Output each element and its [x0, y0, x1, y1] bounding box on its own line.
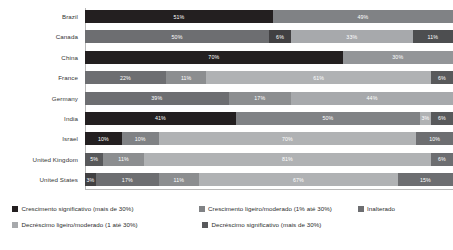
bar-segment: 3%: [85, 173, 96, 186]
bar-segment: 17%: [96, 173, 159, 186]
legend-swatch-icon: [12, 222, 18, 228]
bar-track: 41%50%3%6%: [85, 112, 453, 125]
legend-label: Decréscimo ligeiro/moderado (1 até 30%): [22, 221, 138, 229]
bar-track: 10%10%70%10%: [85, 132, 453, 145]
bar-row-label: Germany: [0, 92, 85, 105]
legend-item[interactable]: Crescimento significativo (mais de 30%): [12, 205, 187, 213]
bar-segment: 44%: [291, 92, 453, 105]
bar-segment: 6%: [431, 112, 453, 125]
bar-segment: 41%: [85, 112, 236, 125]
legend-swatch-icon: [199, 206, 205, 212]
legend-item[interactable]: Inalterado: [358, 205, 436, 213]
bar-row: United Kingdom5%11%81%6%: [0, 153, 453, 166]
chart-legend: Crescimento significativo (mais de 30%)C…: [12, 205, 448, 245]
bar-segment: 70%: [85, 51, 343, 64]
bar-row-label: India: [0, 112, 85, 125]
bar-segment: 6%: [431, 153, 453, 166]
bar-segment: 81%: [144, 153, 431, 166]
bar-track: 70%30%: [85, 51, 453, 64]
bar-rows: Brazil51%49%Canada50%6%33%11%China70%30%…: [0, 8, 453, 190]
bar-row: Germany39%17%44%: [0, 92, 453, 105]
legend-item[interactable]: Decréscimo ligeiro/moderado (1 até 30%): [12, 221, 190, 229]
bar-track: 51%49%: [85, 10, 453, 23]
bar-row-label: United Kingdom: [0, 153, 85, 166]
bar-segment: 10%: [85, 132, 122, 145]
bar-row-label: Brazil: [0, 10, 85, 23]
legend-item[interactable]: Decréscimo significativo (mais de 30%): [202, 221, 352, 229]
bar-segment: 10%: [416, 132, 453, 145]
bar-row-label: Israel: [0, 132, 85, 145]
bar-segment: 70%: [159, 132, 417, 145]
bar-row-label: Canada: [0, 30, 85, 43]
bar-segment: 49%: [273, 10, 453, 23]
bar-row: Brazil51%49%: [0, 10, 453, 23]
legend-label: Decréscimo significativo (mais de 30%): [212, 221, 322, 229]
bar-segment: 3%: [420, 112, 431, 125]
bar-track: 39%17%44%: [85, 92, 453, 105]
bar-row: China70%30%: [0, 51, 453, 64]
bar-segment: 17%: [229, 92, 292, 105]
bar-segment: 15%: [398, 173, 453, 186]
bar-track: 5%11%81%6%: [85, 153, 453, 166]
legend-swatch-icon: [358, 206, 364, 212]
bar-segment: 11%: [159, 173, 199, 186]
bar-segment: 50%: [85, 30, 269, 43]
bar-track: 50%6%33%11%: [85, 30, 453, 43]
legend-row-top: Crescimento significativo (mais de 30%)C…: [12, 205, 448, 221]
bar-segment: 61%: [206, 71, 430, 84]
bar-segment: 39%: [85, 92, 229, 105]
legend-label: Crescimento significativo (mais de 30%): [22, 205, 134, 213]
bar-row-label: United States: [0, 173, 85, 186]
bar-segment: 6%: [269, 30, 291, 43]
legend-row-bottom: Decréscimo ligeiro/moderado (1 até 30%)D…: [12, 221, 448, 237]
bar-row: United States3%17%11%67%15%: [0, 173, 453, 186]
bar-row: Canada50%6%33%11%: [0, 30, 453, 43]
bar-segment: 11%: [103, 153, 143, 166]
bar-segment: 6%: [431, 71, 453, 84]
legend-item[interactable]: Crescimento ligeiro/moderado (1% até 30%…: [199, 205, 346, 213]
bar-row: France22%11%61%6%: [0, 71, 453, 84]
bar-segment: 11%: [413, 30, 453, 43]
bar-segment: 5%: [85, 153, 103, 166]
bar-track: 22%11%61%6%: [85, 71, 453, 84]
bar-row: India41%50%3%6%: [0, 112, 453, 125]
bar-row-label: France: [0, 71, 85, 84]
bar-segment: 33%: [291, 30, 412, 43]
bar-segment: 50%: [236, 112, 420, 125]
legend-swatch-icon: [12, 206, 18, 212]
bar-row: Israel10%10%70%10%: [0, 132, 453, 145]
stacked-bar-chart: Brazil51%49%Canada50%6%33%11%China70%30%…: [0, 0, 453, 250]
legend-swatch-icon: [202, 222, 208, 228]
bar-segment: 11%: [166, 71, 206, 84]
bar-segment: 10%: [122, 132, 159, 145]
bar-row-label: China: [0, 51, 85, 64]
bar-track: 3%17%11%67%15%: [85, 173, 453, 186]
bar-segment: 67%: [199, 173, 398, 186]
legend-label: Crescimento ligeiro/moderado (1% até 30%…: [208, 205, 332, 213]
plot-area: Brazil51%49%Canada50%6%33%11%China70%30%…: [0, 8, 453, 190]
bar-segment: 30%: [343, 51, 453, 64]
bar-segment: 51%: [85, 10, 273, 23]
legend-label: Inalterado: [367, 205, 395, 213]
bar-segment: 22%: [85, 71, 166, 84]
